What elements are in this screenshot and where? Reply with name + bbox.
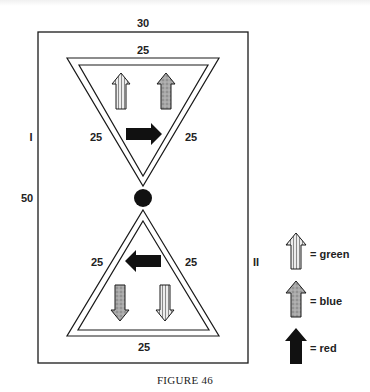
legend-blue-arrow-icon	[286, 281, 306, 317]
blue-arrow-up-icon	[157, 73, 175, 109]
bottom-triangle-bottom-label: 25	[138, 341, 150, 353]
bottom-triangle-left-label: 25	[91, 256, 103, 268]
legend-blue-label: = blue	[310, 295, 342, 307]
legend-red-arrow-icon	[285, 328, 307, 364]
legend-red-label: = red	[310, 342, 337, 354]
top-triangle-left-label: 25	[90, 131, 102, 143]
outer-height-label: 50	[21, 192, 33, 204]
red-arrow-right-icon	[126, 123, 162, 145]
connector-circle-icon	[134, 189, 152, 207]
bottom-triangle-right-label: 25	[185, 256, 197, 268]
top-triangle-right-label: 25	[185, 131, 197, 143]
green-arrow-up-icon	[112, 73, 130, 109]
figure-46-diagram: 30 25 25 25 I 50 25 25 II 25 = green = b…	[0, 0, 370, 392]
legend-green-label: = green	[310, 248, 350, 260]
outer-top-label: 30	[137, 17, 149, 29]
bottom-triangle	[67, 210, 219, 336]
legend: = green = blue = red	[285, 233, 350, 364]
figure-caption: FIGURE 46	[157, 374, 213, 386]
legend-green-arrow-icon	[286, 233, 306, 269]
red-arrow-left-icon	[125, 250, 161, 272]
region-ii-label: II	[253, 256, 259, 268]
top-triangle	[67, 58, 219, 186]
region-i-label: I	[29, 131, 32, 143]
top-triangle-top-label: 25	[137, 44, 149, 56]
blue-arrow-down-icon	[111, 285, 129, 321]
green-arrow-down-icon	[156, 285, 174, 321]
